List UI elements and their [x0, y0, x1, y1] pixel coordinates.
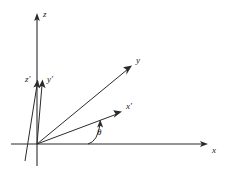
y-axis-label: y [136, 56, 140, 65]
z-prime-axis-label: z′ [25, 75, 30, 84]
y-prime-axis-line [37, 85, 42, 144]
y-axis-arrowhead [123, 66, 132, 75]
y-prime-axis [37, 80, 46, 145]
x-axis [11, 141, 208, 147]
x-prime-axis-line [37, 114, 117, 144]
axes-drawing [0, 0, 227, 169]
y-prime-axis-label: y′ [47, 75, 53, 84]
x-prime-axis [37, 110, 122, 144]
z-prime-axis [25, 80, 40, 162]
x-axis-label: x [212, 146, 216, 155]
z-prime-axis-line [25, 85, 37, 161]
coordinate-axes-diagram: z x y x′ y′ z′ θ [0, 0, 227, 169]
x-prime-axis-label: x′ [126, 102, 132, 111]
theta-angle-label: θ [97, 128, 101, 137]
z-axis-label: z [43, 10, 47, 19]
x-prime-axis-arrowhead [113, 110, 122, 118]
